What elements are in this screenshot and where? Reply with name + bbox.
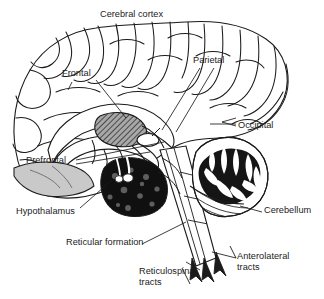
label-prefrontal: Prefrontal	[26, 155, 66, 166]
label-occipital: Occipital	[238, 120, 273, 131]
label-frontal: Frontal	[62, 68, 91, 79]
label-reticular-formation: Reticular formation	[66, 237, 143, 248]
label-parietal: Parietal	[193, 55, 224, 66]
brain-anatomy-figure: Cerebral cortex Frontal Parietal Occipit…	[0, 0, 324, 299]
reticular-formation-mass	[101, 158, 168, 217]
label-cerebral-cortex: Cerebral cortex	[100, 9, 163, 20]
label-reticulospinal-tracts: Reticulospinal tracts	[139, 266, 196, 287]
label-cerebellum: Cerebellum	[264, 205, 311, 216]
label-anterolateral-tracts: Anterolateral tracts	[237, 251, 289, 272]
label-hypothalamus: Hypothalamus	[16, 206, 75, 217]
